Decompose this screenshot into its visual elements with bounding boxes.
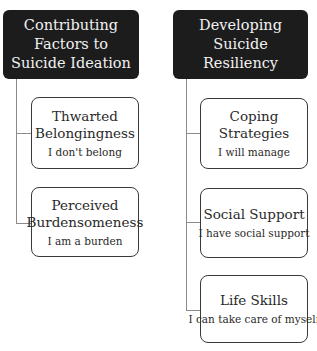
connector-branch-left-1 <box>16 133 31 134</box>
connector-branch-right-1 <box>186 133 200 134</box>
resiliency-coping-strategies: Coping Strategies I will manage <box>200 98 308 169</box>
header-contributing-factors: Contributing Factors to Suicide Ideation <box>3 10 139 79</box>
item-title: Thwarted Belongingness <box>32 108 138 142</box>
factor-thwarted-belongingness: Thwarted Belongingness I don't belong <box>31 97 139 169</box>
header-developing-resiliency: Developing Suicide Resiliency <box>173 10 308 79</box>
item-subtitle: I will manage <box>218 145 290 159</box>
header-label: Contributing Factors to Suicide Ideation <box>9 16 133 73</box>
item-subtitle: I am a burden <box>48 234 123 248</box>
resiliency-life-skills: Life Skills I can take care of myself <box>200 275 308 343</box>
item-title: Perceived Burdensomeness <box>27 197 144 231</box>
header-label: Developing Suicide Resiliency <box>179 16 302 73</box>
item-subtitle: I have social support <box>198 226 309 240</box>
item-subtitle: I can take care of myself <box>188 312 317 326</box>
resiliency-social-support: Social Support I have social support <box>200 188 308 258</box>
item-title: Coping Strategies <box>201 108 307 142</box>
connector-branch-right-3 <box>186 310 200 311</box>
item-subtitle: I don't belong <box>48 145 122 159</box>
connector-branch-right-2 <box>186 222 200 223</box>
item-title: Social Support <box>203 206 304 223</box>
factor-perceived-burdensomeness: Perceived Burdensomeness I am a burden <box>31 187 139 257</box>
connector-vertical-right <box>186 79 187 311</box>
connector-vertical-left <box>16 79 17 224</box>
item-title: Life Skills <box>220 292 288 309</box>
